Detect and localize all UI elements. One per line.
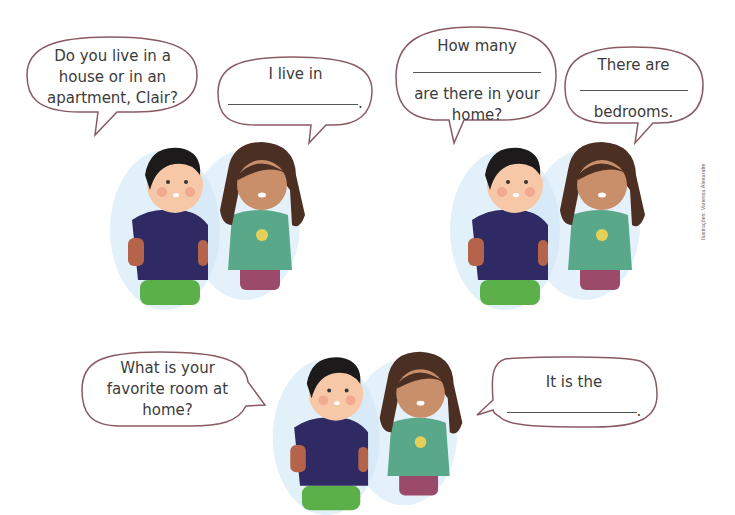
answer-3-prompt: It is the bbox=[495, 372, 653, 393]
question-3-line-1: What is your bbox=[85, 358, 250, 379]
answer-3-text: It is the . bbox=[495, 372, 653, 422]
answer-2-suffix: bedrooms. bbox=[565, 102, 702, 123]
answer-3-blank[interactable] bbox=[507, 411, 637, 413]
question-1-text: Do you live in a house or in an apartmen… bbox=[30, 46, 195, 109]
question-3-text: What is your favorite room at home? bbox=[85, 358, 250, 421]
question-1-line-2: house or in an bbox=[30, 67, 195, 88]
kids-illustration-3 bbox=[270, 340, 470, 515]
question-2-line-2: are there in your bbox=[398, 84, 556, 105]
boy-illustration bbox=[110, 130, 310, 310]
answer-1-text: I live in . bbox=[218, 64, 373, 114]
question-2-text: How many are there in your home? bbox=[398, 36, 556, 126]
answer-2-prompt: There are bbox=[565, 55, 702, 76]
dialogue-scene-3: What is your favorite room at home? It i… bbox=[0, 310, 735, 511]
question-2-prompt: How many bbox=[398, 36, 556, 57]
kids-illustration-2 bbox=[450, 130, 650, 310]
answer-2-text: There are bedrooms. bbox=[565, 55, 702, 123]
illustration-credit: Ilustrações: Vanessa Alexandre bbox=[700, 140, 714, 240]
dialogue-scene-1: Do you live in a house or in an apartmen… bbox=[0, 0, 380, 310]
answer-1-blank[interactable] bbox=[228, 103, 358, 105]
answer-1-prompt: I live in bbox=[218, 64, 373, 85]
answer-2-blank[interactable] bbox=[580, 89, 688, 91]
question-3-line-3: home? bbox=[85, 400, 250, 421]
answer-3-period: . bbox=[637, 402, 642, 420]
dialogue-scene-2: How many are there in your home? There a… bbox=[380, 0, 735, 310]
question-3-line-2: favorite room at bbox=[85, 379, 250, 400]
question-1-line-1: Do you live in a bbox=[30, 46, 195, 67]
question-1-line-3: apartment, Clair? bbox=[30, 88, 195, 109]
answer-1-period: . bbox=[358, 94, 363, 112]
question-2-blank[interactable] bbox=[413, 71, 541, 73]
credit-text: Ilustrações: Vanessa Alexandre bbox=[700, 163, 706, 240]
question-2-line-3: home? bbox=[398, 105, 556, 126]
